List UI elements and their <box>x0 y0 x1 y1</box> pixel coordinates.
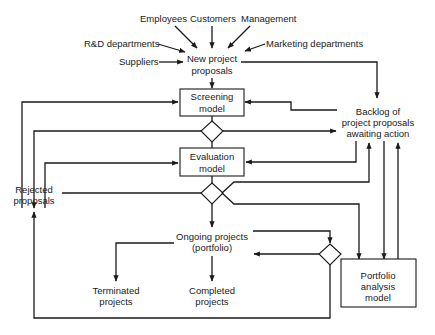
arrow-evaluation-to-portfolio-model <box>222 193 359 259</box>
backlog-line2: project proposals <box>342 117 415 128</box>
portfolio-decision-diamond <box>319 244 341 265</box>
new-proposals-line2: proposals <box>191 65 232 76</box>
arrow-ongoing-to-portfolio-decision <box>253 231 330 243</box>
portfolio-model-line3: model <box>365 292 391 303</box>
screening-decision-diamond <box>201 121 223 142</box>
screening-line2: model <box>199 103 225 114</box>
completed-line1: Completed <box>189 285 235 296</box>
rejected-line2: proposals <box>13 195 54 206</box>
arrow-backlog-to-evaluation <box>246 141 356 162</box>
source-customers: Customers <box>190 13 236 24</box>
portfolio-analysis-model-box: Portfolio analysis model <box>341 259 416 307</box>
source-suppliers: Suppliers <box>119 56 159 67</box>
terminated-line1: Terminated <box>93 285 140 296</box>
arrow-ongoing-to-terminated <box>116 243 174 281</box>
completed-projects-node: Completed projects <box>189 285 235 307</box>
arrow-screening-to-rejected <box>34 131 201 208</box>
project-selection-flowchart: Employees Customers Management R&D depar… <box>0 0 435 335</box>
source-management: Management <box>241 13 297 24</box>
evaluation-decision-diamond <box>201 183 223 204</box>
terminated-projects-node: Terminated projects <box>93 285 140 307</box>
portfolio-model-line1: Portfolio <box>361 270 396 281</box>
ongoing-line1: Ongoing projects <box>176 231 248 242</box>
arrow-rejected-to-evaluation <box>45 163 178 208</box>
evaluation-line1: Evaluation <box>190 151 234 162</box>
new-proposals-line1: New project <box>187 53 238 64</box>
rejected-proposals-node: Rejected proposals <box>13 184 54 206</box>
terminated-line2: projects <box>99 296 133 307</box>
new-project-proposals-node: New project proposals <box>187 53 238 76</box>
source-marketing-departments: Marketing departments <box>266 38 363 49</box>
ongoing-projects-node: Ongoing projects (portfolio) <box>176 231 248 253</box>
source-rd-departments: R&D departments <box>84 38 160 49</box>
ongoing-line2: (portfolio) <box>192 242 232 253</box>
completed-line2: projects <box>195 296 229 307</box>
screening-model-box: Screening model <box>180 89 244 116</box>
screening-line1: Screening <box>191 91 234 102</box>
arrow-backlog-to-screening <box>245 102 337 110</box>
portfolio-model-line2: analysis <box>361 281 396 292</box>
backlog-line1: Backlog of <box>356 106 401 117</box>
source-employees: Employees <box>140 13 187 24</box>
rejected-line1: Rejected <box>15 184 53 195</box>
arrow-proposals-to-backlog <box>241 62 377 98</box>
backlog-line3: awaiting action <box>347 128 410 139</box>
evaluation-line2: model <box>199 163 225 174</box>
backlog-node: Backlog of project proposals awaiting ac… <box>342 106 415 139</box>
evaluation-model-box: Evaluation model <box>180 148 244 176</box>
arrow-portfolio-decision-to-rejected <box>34 212 330 318</box>
